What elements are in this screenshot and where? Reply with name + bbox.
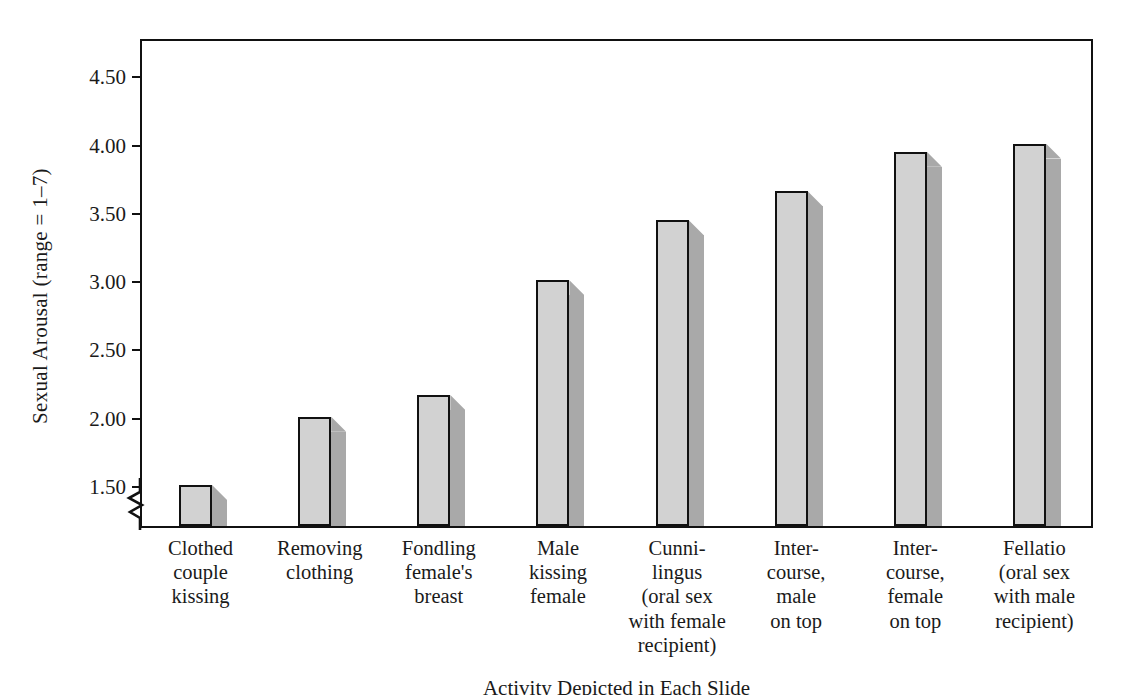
x-axis-category-label: Clothed couple kissing [134, 536, 267, 609]
y-axis-tick-label: 3.00 [89, 270, 126, 295]
x-axis-category-label: Inter- course, female on top [849, 536, 982, 633]
bar-front-face [298, 417, 331, 526]
axis-break-icon [126, 478, 160, 530]
bar-front-face [775, 191, 808, 526]
bar-side-face [450, 410, 465, 526]
plot-area [142, 41, 1091, 526]
bar [536, 280, 569, 526]
bar-side-face [689, 235, 704, 526]
bar-side-face [212, 500, 227, 526]
y-axis-tick-label: 4.50 [89, 65, 126, 90]
bar [179, 485, 212, 526]
bar-side-face [808, 206, 823, 526]
y-axis-tick-label: 2.50 [89, 338, 126, 363]
bar-top-face [1046, 144, 1061, 159]
bar-side-face [927, 167, 942, 526]
bar-front-face [656, 220, 689, 526]
plot-frame [140, 39, 1093, 528]
bar [298, 417, 331, 526]
y-axis-tick-label: 4.00 [89, 133, 126, 158]
y-axis-title: Sexual Arousal (range = 1–7) [18, 26, 62, 566]
bar [894, 152, 927, 526]
bar-front-face [536, 280, 569, 526]
bar [656, 220, 689, 526]
x-axis-category-label: Removing clothing [253, 536, 386, 584]
bar-top-face [808, 191, 823, 206]
bar-top-face [450, 395, 465, 410]
x-axis-category-label: Inter- course, male on top [730, 536, 863, 633]
bar-top-face [212, 485, 227, 500]
bar-front-face [179, 485, 212, 526]
x-axis-category-label: Fellatio (oral sex with male recipient) [968, 536, 1101, 633]
x-axis-category-labels: Clothed couple kissingRemoving clothingF… [140, 536, 1093, 666]
y-axis-tick-labels: 1.502.002.503.003.504.004.50 [60, 39, 134, 527]
y-axis-tick-label: 3.50 [89, 201, 126, 226]
bar-top-face [331, 417, 346, 432]
bar-top-face [927, 152, 942, 167]
y-axis-tick-label: 2.00 [89, 406, 126, 431]
y-axis-tick-label: 1.50 [89, 475, 126, 500]
bar-front-face [1013, 144, 1046, 526]
bar [417, 395, 450, 526]
bar-front-face [417, 395, 450, 526]
bar-top-face [689, 220, 704, 235]
x-axis-category-label: Fondling female's breast [372, 536, 505, 609]
bar-front-face [894, 152, 927, 526]
x-axis-category-label: Cunni- lingus (oral sex with female reci… [611, 536, 744, 657]
bar-side-face [331, 432, 346, 526]
x-axis-title: Activity Depicted in Each Slide [140, 676, 1093, 695]
bar-side-face [1046, 159, 1061, 526]
bar-side-face [569, 295, 584, 526]
x-axis-category-label: Male kissing female [491, 536, 624, 609]
chart-figure: Sexual Arousal (range = 1–7) 1.502.002.5… [0, 0, 1129, 695]
bar [1013, 144, 1046, 526]
bar-top-face [569, 280, 584, 295]
bar [775, 191, 808, 526]
